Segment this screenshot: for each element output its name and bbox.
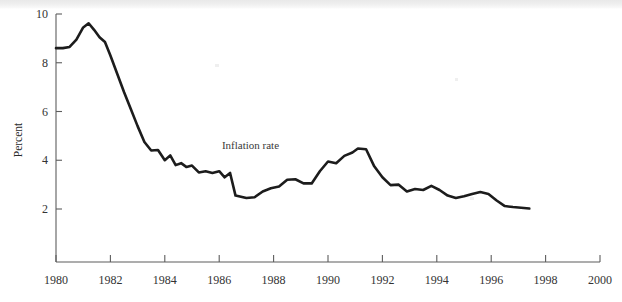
x-tick-label: 1996 xyxy=(479,273,503,287)
x-tick-label: 1988 xyxy=(262,273,286,287)
x-tick-label: 1994 xyxy=(425,273,449,287)
x-tick-label: 1980 xyxy=(44,273,68,287)
x-tick-label: 1992 xyxy=(370,273,394,287)
y-tick-label: 2 xyxy=(42,202,48,216)
x-tick-label: 1998 xyxy=(534,273,558,287)
x-tick-label: 1982 xyxy=(98,273,122,287)
y-tick-label: 8 xyxy=(42,56,48,70)
inflation-rate-chart: Percent 246810 1980198219841986198819901… xyxy=(0,0,622,302)
axis-group xyxy=(56,14,600,262)
y-tick-label: 10 xyxy=(36,7,48,21)
x-tick-label: 1986 xyxy=(207,273,231,287)
series-annotation-inflation-rate: Inflation rate xyxy=(222,139,279,151)
y-tick-label: 4 xyxy=(42,153,48,167)
x-tick-label: 1984 xyxy=(153,273,177,287)
x-tick-label: 2000 xyxy=(588,273,612,287)
y-tick-group xyxy=(56,14,62,209)
x-tick-label: 1990 xyxy=(316,273,340,287)
y-tick-label: 6 xyxy=(42,105,48,119)
x-tick-group xyxy=(56,255,600,262)
x-tick-label-group: 1980198219841986198819901992199419961998… xyxy=(44,273,612,287)
chart-page: Percent 246810 1980198219841986198819901… xyxy=(0,0,622,302)
y-tick-label-group: 246810 xyxy=(36,7,48,216)
data-series-inflation-rate xyxy=(56,23,529,208)
y-axis-title: Percent xyxy=(12,122,24,157)
